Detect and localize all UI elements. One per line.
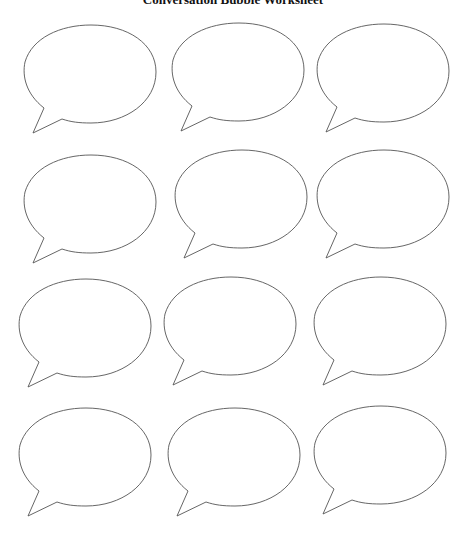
- speech-bubble-icon: [167, 145, 317, 270]
- speech-bubble-icon: [11, 403, 161, 528]
- speech-bubble-icon: [306, 272, 456, 397]
- bubble-grid: [0, 0, 466, 534]
- speech-bubble-icon: [16, 150, 166, 275]
- speech-bubble-icon: [164, 18, 314, 143]
- speech-bubble-icon: [309, 145, 459, 270]
- speech-bubble-icon: [309, 19, 459, 144]
- speech-bubble-icon: [156, 272, 306, 397]
- speech-bubble-icon: [16, 20, 166, 145]
- speech-bubble-icon: [11, 274, 161, 399]
- speech-bubble-icon: [160, 403, 310, 528]
- speech-bubble-icon: [306, 401, 456, 526]
